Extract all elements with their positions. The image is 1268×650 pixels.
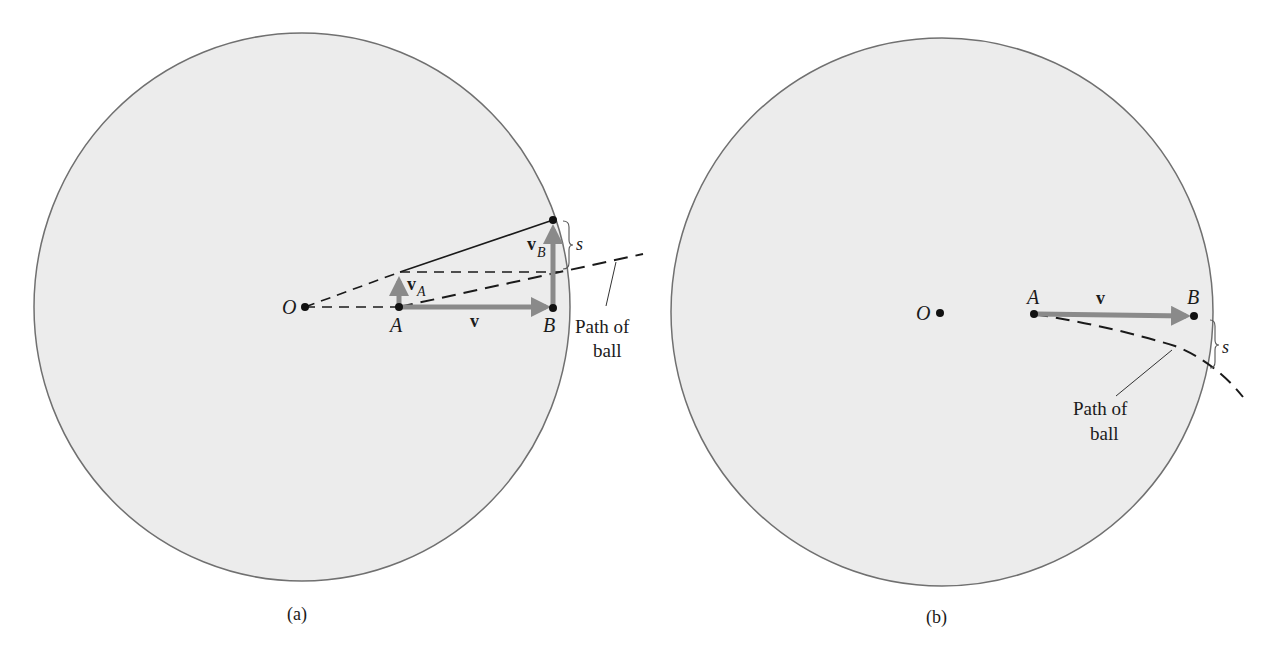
label-point-a-a: A [388, 314, 403, 336]
point-a-a [395, 303, 403, 311]
label-path-line1-a: Path of [575, 316, 630, 337]
rotating-disk-diagram: O A B v v A v B s Path of ball (a) O A B… [0, 0, 1268, 650]
label-velocity-va-main: v [407, 274, 416, 294]
point-top-a [549, 216, 557, 224]
path-leader-line-a [606, 262, 616, 306]
label-velocity-vb-sub: B [537, 245, 546, 260]
label-velocity-a: v [470, 311, 479, 331]
label-deflection-a: s [576, 234, 583, 254]
label-point-b-b: B [1187, 286, 1199, 308]
panel-b: O A B v s Path of ball (b) [671, 38, 1243, 628]
point-b-b [1190, 312, 1198, 320]
label-origin-b: O [916, 302, 930, 324]
label-path-line2-a: ball [593, 340, 622, 361]
label-point-a-b: A [1025, 286, 1040, 308]
label-point-b-a: B [543, 314, 555, 336]
label-velocity-b: v [1096, 288, 1105, 308]
velocity-vector-v-b [1037, 314, 1186, 316]
point-b-a [549, 304, 557, 312]
label-path-line2-b: ball [1090, 423, 1119, 444]
point-a-b [1030, 310, 1038, 318]
label-path-line1-b: Path of [1073, 398, 1128, 419]
label-origin-a: O [282, 296, 296, 318]
panel-a: O A B v v A v B s Path of ball (a) [34, 33, 643, 625]
point-o-b [936, 309, 944, 317]
caption-a: (a) [287, 604, 307, 625]
label-velocity-va-sub: A [416, 284, 426, 299]
point-o-a [301, 303, 309, 311]
label-velocity-vb-main: v [527, 234, 536, 254]
label-deflection-b: s [1222, 337, 1229, 357]
caption-b: (b) [926, 607, 947, 628]
